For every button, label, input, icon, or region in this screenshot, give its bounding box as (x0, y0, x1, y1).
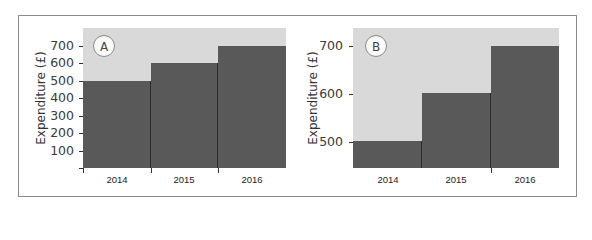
ytick-b (349, 142, 353, 143)
ytick-b (349, 46, 353, 47)
bar-2014-a (83, 81, 151, 168)
xtick-a (218, 168, 219, 173)
ytick-label-b: 700 (303, 39, 343, 53)
ytick-a (79, 116, 83, 117)
ytick-a (79, 46, 83, 47)
xtick-a (83, 168, 84, 173)
ytick-a (79, 151, 83, 152)
ytick-a (79, 98, 83, 99)
bar-2015-b (422, 93, 491, 168)
x-label-a: 2015 (154, 174, 214, 185)
ytick-label-a: 100 (34, 144, 74, 158)
bar-2014-b (353, 141, 422, 168)
ytick-a (79, 133, 83, 134)
x-label-b: 2014 (358, 174, 418, 185)
ytick-label-a: 500 (34, 74, 74, 88)
ytick-label-a: 400 (34, 91, 74, 105)
bar-2016-b (491, 46, 559, 168)
bar-2015-a (151, 63, 218, 168)
y-axis-line-a (82, 40, 83, 172)
ytick-b (349, 94, 353, 95)
ytick-label-b: 500 (303, 135, 343, 149)
ytick-label-b: 600 (303, 87, 343, 101)
ytick-label-a: 200 (34, 126, 74, 140)
ytick-a (79, 63, 83, 64)
panel-badge-b: B (365, 35, 387, 57)
x-label-b: 2016 (495, 174, 555, 185)
xtick-a (151, 168, 152, 173)
bar-2016-a (218, 46, 286, 168)
x-label-a: 2014 (87, 174, 147, 185)
ytick-a (79, 81, 83, 82)
ytick-label-a: 300 (34, 109, 74, 123)
panel-badge-a: A (93, 35, 115, 57)
x-label-b: 2015 (426, 174, 486, 185)
x-label-a: 2016 (222, 174, 282, 185)
xtick-b (491, 168, 492, 173)
ytick-label-a: 700 (34, 39, 74, 53)
ytick-label-a: 600 (34, 56, 74, 70)
